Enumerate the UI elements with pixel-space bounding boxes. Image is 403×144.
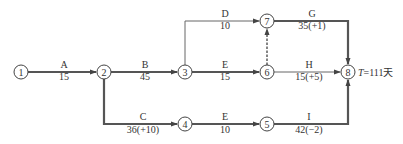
node-4: 4	[178, 117, 192, 131]
activity-B: B 45	[111, 59, 177, 82]
activity-A-duration: 15	[59, 71, 69, 82]
activity-E-lower-duration: 10	[220, 124, 230, 135]
activity-E-lower: E 10	[192, 111, 259, 135]
activity-D-name: D	[221, 8, 228, 19]
node-1: 1	[14, 65, 28, 79]
activity-G-duration: 35(+1)	[298, 20, 325, 32]
activity-C-duration: 36(+10)	[127, 124, 159, 136]
node-3-label: 3	[183, 67, 188, 78]
activity-A-name: A	[60, 59, 68, 70]
activity-B-name: B	[142, 59, 149, 70]
node-1-label: 1	[19, 67, 24, 78]
network-diagram: A 15 B 45 C 36(+10) D 10 E 15 E 10 G 35(…	[0, 0, 403, 144]
activity-I-name: I	[307, 111, 310, 122]
activity-I-duration: 42(−2)	[295, 124, 322, 136]
node-7: 7	[260, 14, 274, 28]
activity-H-name: H	[305, 59, 312, 70]
node-5-label: 5	[265, 119, 270, 130]
activity-D: D 10	[185, 8, 259, 65]
activity-C-name: C	[140, 111, 147, 122]
activity-H: H 15(+5)	[274, 59, 340, 83]
node-5: 5	[260, 117, 274, 131]
activity-E-lower-name: E	[222, 111, 228, 122]
activity-B-duration: 45	[140, 71, 150, 82]
activity-E-upper-name: E	[222, 59, 228, 70]
activity-G-name: G	[308, 8, 315, 19]
node-8: 8	[341, 65, 355, 79]
activity-E-upper: E 15	[192, 59, 259, 82]
activity-D-duration: 10	[220, 20, 230, 31]
activity-I: I 42(−2)	[274, 80, 348, 136]
total-duration-value: =111天	[364, 67, 394, 78]
node-7-label: 7	[265, 16, 270, 27]
activity-G: G 35(+1)	[274, 8, 348, 64]
activity-E-upper-duration: 15	[220, 71, 230, 82]
activity-A: A 15	[28, 59, 96, 82]
total-duration: T=111天	[358, 67, 393, 78]
node-4-label: 4	[183, 119, 188, 130]
node-3: 3	[178, 65, 192, 79]
activity-H-duration: 15(+5)	[295, 71, 322, 83]
activity-C: C 36(+10)	[104, 79, 177, 136]
node-2: 2	[97, 65, 111, 79]
node-8-label: 8	[346, 67, 351, 78]
node-6: 6	[260, 65, 274, 79]
node-6-label: 6	[265, 67, 270, 78]
node-2-label: 2	[102, 67, 107, 78]
